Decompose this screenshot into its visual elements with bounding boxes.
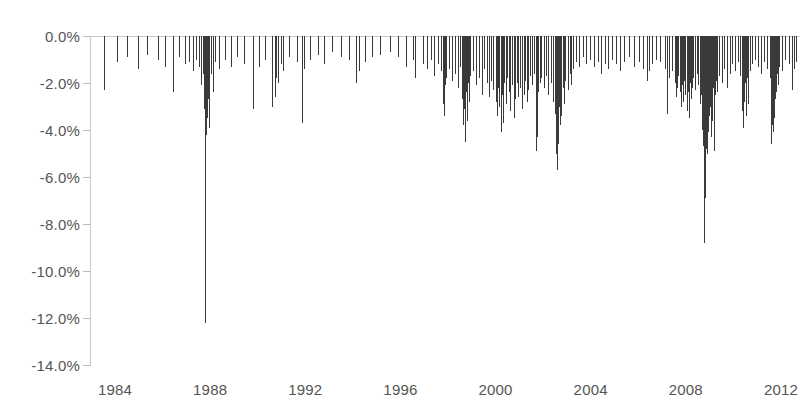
x-axis-tick-label: 1988 [193,381,227,398]
data-spike [380,36,381,55]
data-spike [127,36,128,57]
data-spike [738,36,739,62]
data-spike [510,36,511,111]
x-axis-tick-label: 1992 [288,381,322,398]
data-spike [727,36,728,88]
data-spike [489,36,490,97]
x-axis-tick-label: 2008 [669,381,703,398]
data-spike [758,36,759,67]
data-spike [185,36,186,64]
y-axis-tick-mark [83,365,90,366]
chart-container: 0.0%-2.0%-4.0%-6.0%-8.0%-10.0%-12.0%-14.… [0,0,808,415]
data-spike [476,36,477,85]
data-spike [341,36,342,57]
data-spike [620,36,621,71]
y-axis-tick-mark [83,271,90,272]
data-spike [193,36,194,71]
data-spike [750,36,751,71]
data-spike [179,36,180,57]
data-spike [730,36,731,74]
data-spike [272,36,273,107]
data-spike [211,36,212,74]
data-spike [318,36,319,55]
data-spike [225,36,226,60]
data-spike [289,36,290,57]
data-spike [649,36,650,71]
data-spike [482,36,483,95]
data-spike [761,36,762,74]
data-spike [349,36,350,60]
y-axis-tick-mark [83,130,90,131]
data-spike [722,36,723,83]
data-spike [215,36,216,62]
data-spike [755,36,756,60]
data-spike [665,36,666,69]
data-spike [586,36,587,64]
data-spike [455,36,456,74]
data-spike [518,36,519,97]
data-spike [310,36,311,60]
data-spike [413,36,414,60]
data-spike [434,36,435,76]
plot-area [96,36,800,365]
data-spike [244,36,245,64]
data-spike [460,36,461,67]
data-spike [752,36,753,64]
data-spike [612,36,613,60]
data-spike [544,36,545,88]
y-axis-line [90,36,91,366]
data-spike [724,36,725,69]
data-spike [656,36,657,60]
data-spike [431,36,432,60]
data-spike [639,36,640,62]
data-spike [297,36,298,62]
data-spike [365,36,366,62]
data-spike [598,36,599,62]
data-spike [441,36,442,71]
data-spike [138,36,139,69]
data-spike [458,36,459,88]
data-spike [406,36,407,67]
data-spike [548,36,549,95]
data-spike [573,36,574,69]
data-spike [616,36,617,64]
x-axis-tick-label: 2012 [764,381,798,398]
data-spike [735,36,736,71]
data-spike [571,36,572,85]
data-spike [643,36,644,69]
x-axis-tick-label: 1984 [98,381,132,398]
data-spike [281,36,282,64]
data-spike [796,36,797,62]
data-spike [719,36,720,76]
data-spike [652,36,653,64]
data-spike [359,36,360,71]
data-spike [764,36,765,62]
data-spike [792,36,793,90]
data-spike [534,36,535,74]
data-spike [493,36,494,90]
data-spike [104,36,105,90]
data-spike [576,36,577,62]
x-axis-tick-label: 2004 [574,381,608,398]
data-spike [332,36,333,52]
data-spike [219,36,220,69]
data-spike [423,36,424,64]
data-spike [605,36,606,64]
data-spike [608,36,609,69]
data-spike [789,36,790,64]
data-spike [438,36,439,64]
data-spike [546,36,547,76]
y-axis-tick-mark [83,177,90,178]
data-spike [491,36,492,81]
data-spike [196,36,197,60]
x-axis-tick-label: 1996 [383,381,417,398]
data-spike [551,36,552,83]
data-spike [624,36,625,62]
data-spike [158,36,159,60]
x-axis-tick-label: 2000 [478,381,512,398]
data-spike [165,36,166,67]
data-spike [390,36,391,52]
data-spike [583,36,584,57]
data-spike [484,36,485,69]
data-spike [767,36,768,69]
